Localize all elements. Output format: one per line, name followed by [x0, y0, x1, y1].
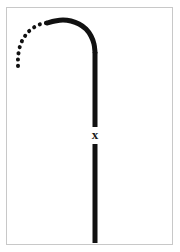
figure-drawing-canvas [0, 0, 180, 252]
figure-root: x [0, 0, 180, 252]
dotted-arc-branch [18, 23, 46, 71]
curve-group [18, 20, 95, 243]
solid-arc-bend [47, 20, 95, 52]
point-label-x: x [87, 128, 103, 142]
